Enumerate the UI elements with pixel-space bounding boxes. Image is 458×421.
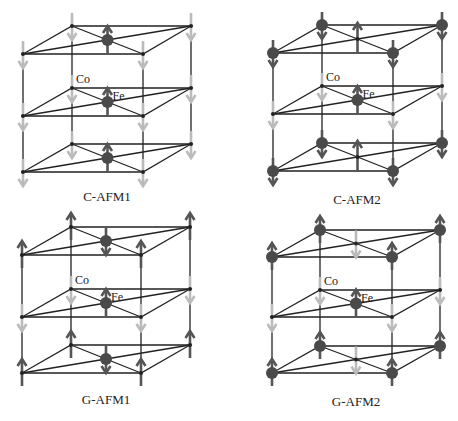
fe-atom bbox=[356, 155, 360, 159]
co-atom bbox=[139, 371, 143, 375]
panel-title: G-AFM2 bbox=[332, 394, 380, 409]
co-atom bbox=[386, 251, 398, 263]
fe-atom bbox=[100, 353, 112, 365]
crystal-lattice bbox=[18, 213, 195, 386]
co-atom bbox=[434, 224, 446, 236]
co-atom bbox=[314, 340, 326, 352]
co-atom bbox=[391, 112, 395, 116]
co-atom bbox=[438, 288, 442, 292]
co-atom bbox=[70, 86, 74, 90]
fe-atom-label: Fe bbox=[363, 87, 375, 101]
co-atom-label: Co bbox=[324, 274, 338, 288]
fe-atom-label: Fe bbox=[111, 290, 123, 304]
co-atom bbox=[20, 371, 24, 375]
co-atom bbox=[436, 137, 448, 149]
magnetic-configurations-figure: Co Fe C-AFM1 Co Fe C-AFM2 Co Fe G-AFM1 C… bbox=[0, 0, 458, 421]
co-atom bbox=[390, 315, 394, 319]
co-atom bbox=[139, 253, 143, 257]
co-atom bbox=[314, 224, 326, 236]
co-atom bbox=[139, 315, 143, 319]
fe-atom bbox=[100, 235, 112, 247]
co-atom bbox=[69, 343, 73, 347]
fe-atom-label: Fe bbox=[361, 291, 373, 305]
co-atom bbox=[189, 24, 193, 28]
co-atom bbox=[188, 343, 192, 347]
co-atom-label: Co bbox=[75, 273, 89, 287]
crystal-lattice bbox=[266, 216, 446, 386]
co-atom bbox=[188, 287, 192, 291]
panel-title: G-AFM1 bbox=[82, 392, 130, 407]
co-atom bbox=[387, 47, 399, 59]
panel-c-afm1: Co Fe C-AFM1 bbox=[19, 13, 196, 204]
co-atom-label: Co bbox=[76, 72, 90, 86]
co-atom bbox=[266, 367, 278, 379]
fe-atom bbox=[354, 242, 358, 246]
co-atom bbox=[434, 340, 446, 352]
co-atom bbox=[387, 165, 399, 177]
panel-c-afm2: Co Fe C-AFM2 bbox=[267, 12, 448, 207]
panel-g-afm2: Co Fe G-AFM2 bbox=[266, 216, 446, 409]
co-atom bbox=[188, 225, 192, 229]
co-atom bbox=[21, 114, 25, 118]
co-atom bbox=[21, 52, 25, 56]
co-atom bbox=[267, 47, 279, 59]
panel-title: C-AFM2 bbox=[333, 192, 381, 207]
co-atom bbox=[189, 142, 193, 146]
crystal-lattice bbox=[267, 12, 448, 185]
fe-atom bbox=[354, 358, 358, 362]
fe-atom bbox=[102, 34, 114, 46]
co-atom bbox=[267, 165, 279, 177]
co-atom bbox=[318, 288, 322, 292]
co-atom bbox=[189, 86, 193, 90]
co-atom-label: Co bbox=[326, 70, 340, 84]
crystal-lattice bbox=[19, 13, 196, 186]
co-atom bbox=[141, 52, 145, 56]
co-atom bbox=[70, 24, 74, 28]
co-atom bbox=[320, 84, 324, 88]
co-atom bbox=[20, 253, 24, 257]
panel-title: C-AFM1 bbox=[83, 189, 131, 204]
co-atom bbox=[69, 287, 73, 291]
co-atom bbox=[436, 19, 448, 31]
co-atom bbox=[271, 112, 275, 116]
fe-atom-label: Fe bbox=[113, 89, 125, 103]
co-atom bbox=[70, 142, 74, 146]
co-atom bbox=[266, 251, 278, 263]
co-atom bbox=[20, 315, 24, 319]
panel-g-afm1: Co Fe G-AFM1 bbox=[18, 213, 195, 407]
co-atom bbox=[21, 170, 25, 174]
co-atom bbox=[316, 137, 328, 149]
co-atom bbox=[141, 114, 145, 118]
fe-atom bbox=[356, 37, 360, 41]
co-atom bbox=[69, 225, 73, 229]
co-atom bbox=[316, 19, 328, 31]
co-atom bbox=[141, 170, 145, 174]
co-atom bbox=[270, 315, 274, 319]
co-atom bbox=[386, 367, 398, 379]
fe-atom bbox=[102, 152, 114, 164]
co-atom bbox=[440, 84, 444, 88]
